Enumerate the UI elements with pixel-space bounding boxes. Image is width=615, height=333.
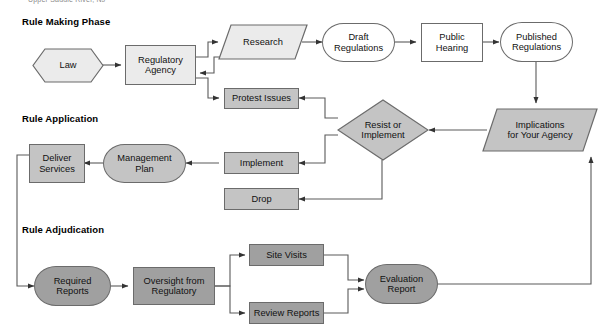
node-oversight-from-regulatory[interactable]: Oversight from Regulatory [133, 267, 215, 305]
node-drop-label: Drop [249, 194, 273, 204]
edge-oversight-to-site-visits [215, 255, 245, 286]
node-implement[interactable]: Implement [224, 152, 299, 174]
node-required-reports-label: Required Reports [52, 276, 94, 297]
node-site-visits[interactable]: Site Visits [249, 244, 324, 266]
edge-resist-to-implement [299, 135, 338, 163]
node-implement-label: Implement [238, 158, 285, 168]
node-law[interactable]: Law [32, 48, 104, 83]
edge-review-reports-to-evaluation-report [324, 289, 364, 313]
edge-resist-to-drop [299, 160, 382, 199]
node-research[interactable]: Research [218, 24, 308, 60]
node-protest-issues[interactable]: Protest Issues [224, 88, 299, 109]
edge-regulatory-agency-to-research [196, 42, 218, 57]
edge-evaluation-report-to-implications [438, 157, 591, 284]
node-required-reports[interactable]: Required Reports [34, 266, 111, 306]
edge-oversight-to-review-reports [215, 286, 245, 313]
node-regulatory-agency-label: Regulatory Agency [136, 55, 185, 76]
node-research-label: Research [241, 37, 285, 47]
node-management-plan[interactable]: Management Plan [103, 144, 186, 183]
node-implications[interactable]: Implications for Your Agency [482, 108, 598, 152]
node-draft-regulations-label: Draft Regulations [332, 32, 385, 53]
node-protest-issues-label: Protest Issues [230, 93, 293, 103]
node-review-reports-label: Review Reports [252, 308, 322, 318]
node-regulatory-agency[interactable]: Regulatory Agency [125, 45, 196, 85]
edge-site-visits-to-evaluation-report [324, 255, 364, 280]
node-published-regulations[interactable]: Published Regulations [500, 22, 573, 62]
node-management-plan-label: Management Plan [115, 153, 173, 174]
node-review-reports[interactable]: Review Reports [249, 302, 324, 324]
node-drop[interactable]: Drop [224, 188, 299, 210]
node-deliver-services[interactable]: Deliver Services [29, 144, 85, 183]
node-published-regulations-label: Published Regulations [510, 32, 563, 53]
edge-resist-to-protest-issues [299, 98, 338, 118]
node-draft-regulations[interactable]: Draft Regulations [322, 23, 395, 62]
node-site-visits-label: Site Visits [264, 250, 309, 260]
edge-regulatory-agency-to-protest-issues [196, 78, 219, 98]
node-public-hearing[interactable]: Public Hearing [421, 23, 483, 62]
node-evaluation-report[interactable]: Evaluation Report [365, 264, 438, 304]
node-resist-or-implement-label: Resist or Implement [359, 120, 406, 141]
node-implications-label: Implications for Your Agency [505, 120, 574, 141]
node-public-hearing-label: Public Hearing [434, 32, 471, 53]
node-resist-or-implement[interactable]: Resist or Implement [337, 99, 429, 161]
flowchart-canvas: Upper Saddle River, NJ Rule Making Phase… [0, 0, 615, 333]
node-evaluation-report-label: Evaluation Report [378, 274, 425, 295]
node-law-label: Law [57, 60, 78, 70]
node-deliver-services-label: Deliver Services [37, 153, 77, 174]
node-oversight-from-regulatory-label: Oversight from Regulatory [142, 276, 207, 297]
